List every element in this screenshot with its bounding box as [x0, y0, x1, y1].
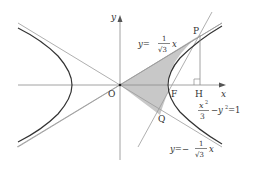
- svg-text:2: 2: [205, 99, 208, 105]
- svg-text:√3: √3: [158, 46, 167, 54]
- right-angle-mark: [194, 79, 200, 85]
- upper-asymptote-equation: y= 1 √3 x: [137, 35, 177, 54]
- point-h-label: H: [195, 89, 203, 99]
- hyperbola-diagram: y x O P F H Q y= 1 √3 x x 2 3 −y 2 =1 y=…: [0, 0, 256, 169]
- y-axis-label: y: [110, 12, 117, 22]
- svg-text:y=−: y=−: [169, 144, 189, 154]
- svg-text:√3: √3: [195, 151, 204, 159]
- svg-text:y=: y=: [137, 39, 150, 49]
- svg-text:x: x: [199, 101, 204, 110]
- svg-text:3: 3: [200, 112, 205, 121]
- svg-text:x: x: [172, 39, 177, 49]
- svg-text:x: x: [209, 144, 214, 154]
- point-p-label: P: [193, 26, 199, 36]
- lower-asymptote: [17, 0, 96, 146]
- origin-dot: [119, 84, 122, 87]
- y-axis-arrow-icon: [118, 15, 123, 22]
- point-q-label: Q: [158, 114, 165, 124]
- x-axis-label: x: [221, 89, 226, 99]
- svg-text:−y: −y: [211, 105, 223, 115]
- svg-text:=1: =1: [228, 105, 241, 115]
- lower-asymptote-equation: y=− 1 √3 x: [169, 140, 214, 159]
- hyperbola-equation: x 2 3 −y 2 =1: [198, 99, 241, 121]
- svg-text:1: 1: [199, 140, 203, 148]
- svg-text:1: 1: [162, 35, 166, 43]
- point-f-label: F: [171, 89, 177, 99]
- origin-label: O: [108, 89, 115, 99]
- x-axis-arrow-icon: [219, 83, 226, 88]
